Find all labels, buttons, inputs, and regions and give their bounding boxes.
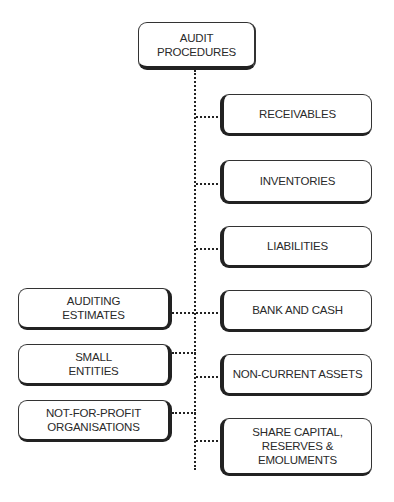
connector-inventories <box>196 183 222 185</box>
node-inventories: INVENTORIES <box>220 160 372 204</box>
main-trunk-connector <box>194 70 196 470</box>
node-small-entities: SMALL ENTITIES <box>18 344 172 386</box>
connector-small-entities <box>172 352 196 354</box>
node-not-for-profit: NOT-FOR-PROFIT ORGANISATIONS <box>18 400 172 442</box>
node-receivables: RECEIVABLES <box>220 94 372 136</box>
node-auditing-estimates: AUDITING ESTIMATES <box>18 288 172 330</box>
node-bank-and-cash: BANK AND CASH <box>220 290 372 332</box>
connector-share-capital <box>196 440 222 442</box>
connector-receivables <box>196 116 222 118</box>
connector-non-current-assets <box>196 376 222 378</box>
node-liabilities: LIABILITIES <box>220 226 372 268</box>
node-share-capital: SHARE CAPITAL, RESERVES & EMOLUMENTS <box>220 418 372 476</box>
connector-not-for-profit <box>172 412 196 414</box>
connector-auditing-estimates <box>172 312 222 314</box>
node-non-current-assets: NON-CURRENT ASSETS <box>220 354 372 396</box>
connector-liabilities <box>196 248 222 250</box>
root-node-audit-procedures: AUDIT PROCEDURES <box>138 22 256 70</box>
